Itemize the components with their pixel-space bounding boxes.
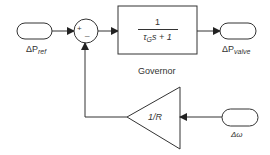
input-ref-sub: ref [38,48,46,55]
input-ref-label: ΔPref [26,44,46,55]
output-main: ΔP [222,44,234,54]
output-valve-label: ΔPvalve [222,44,250,55]
tf-denominator: τGs + 1 [143,30,172,43]
tf-numerator: 1 [155,17,160,29]
gain-label: 1/R [148,112,162,122]
governor-caption: Governor [138,66,176,76]
input-ref-port [17,23,52,39]
input-ref-main: ΔP [26,44,38,54]
governor-transfer-function: 1 τGs + 1 [118,6,197,54]
denominator-rest: s + 1 [152,32,172,42]
input-speed-port [222,109,258,126]
plus-sign: + [77,24,82,33]
input-speed-label: Δω [231,130,243,139]
output-valve-port [220,23,256,39]
output-sub: valve [234,48,250,55]
minus-sign: _ [85,28,89,37]
